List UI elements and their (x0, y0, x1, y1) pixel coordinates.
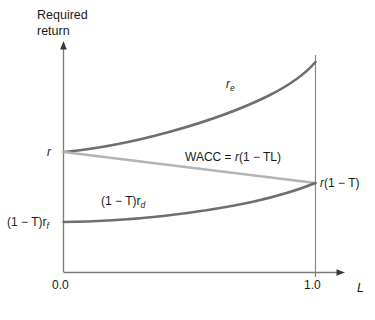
y-axis-title-line1: Required (37, 8, 88, 22)
x-tick-label-1: 1.0 (304, 278, 321, 293)
endpoint-label-r-times-1-minus-t: r(1 − T) (320, 176, 359, 191)
curve-re (64, 62, 316, 152)
y-label-rf-after-tax: (1 − T)rf (7, 215, 49, 230)
curve-label-wacc-prefix: WACC = (185, 150, 235, 164)
y-label-r-text: r (47, 145, 51, 159)
x-axis (64, 269, 346, 276)
curve-label-wacc-rest: (1 − TL) (239, 150, 281, 164)
y-axis (60, 41, 67, 272)
curve-label-rd-main: (1 − T)r (101, 194, 140, 208)
chart-figure: Required return 0.0 1.0 L r (1 − T)rf re… (0, 0, 375, 320)
endpoint-label-rest: (1 − T) (324, 176, 359, 190)
curve-label-re-subscript: e (230, 83, 235, 93)
curve-label-re: re (226, 77, 235, 92)
x-axis-arrowhead (337, 269, 346, 276)
y-label-r: r (47, 145, 51, 160)
y-axis-arrowhead (60, 41, 67, 50)
y-axis-title-line2: return (37, 24, 88, 40)
x-tick-label-0: 0.0 (52, 278, 69, 293)
curve-label-rd-subscript: d (140, 200, 145, 210)
x-axis-variable-label: L (357, 281, 364, 297)
y-label-rf-main: (1 − T)r (7, 215, 46, 229)
y-axis-title: Required return (37, 8, 88, 39)
curve-label-wacc: WACC = r(1 − TL) (185, 150, 281, 165)
curve-label-rd: (1 − T)rd (101, 194, 145, 209)
y-label-rf-subscript: f (46, 221, 48, 231)
